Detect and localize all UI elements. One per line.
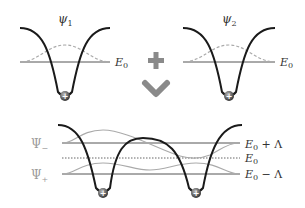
nucleus-icon: + xyxy=(224,91,234,101)
svg-text:+: + xyxy=(100,189,107,198)
upper-level-label: E0 + Λ xyxy=(244,138,283,152)
double-well-diagram: + ψ1 E0 + ψ2 E0 + xyxy=(0,0,305,208)
psi-plus-label: Ψ+ xyxy=(31,168,48,184)
nucleus-icon: + xyxy=(60,91,70,101)
psi-minus-label: Ψ− xyxy=(31,137,48,153)
double-well: + + Ψ− Ψ+ E0 + Λ E0 E0 − Λ xyxy=(31,125,283,198)
e0-label-left: E0 xyxy=(114,56,128,70)
e0-label-right: E0 xyxy=(279,56,293,70)
svg-text:+: + xyxy=(62,92,69,101)
svg-text:+: + xyxy=(226,92,233,101)
psi1-label: ψ1 xyxy=(58,12,73,28)
single-well-1: + ψ1 E0 xyxy=(20,12,128,101)
wavefunction-psi1 xyxy=(22,45,108,62)
nucleus-icon: + xyxy=(191,188,201,198)
nucleus-icon: + xyxy=(98,188,108,198)
wavefunction-psi2 xyxy=(185,45,273,62)
psi2-label: ψ2 xyxy=(222,12,237,28)
chevron-down-icon xyxy=(145,83,167,94)
svg-text:+: + xyxy=(193,189,200,198)
lower-level-label: E0 − Λ xyxy=(244,168,283,182)
middle-level-label: E0 xyxy=(244,152,258,166)
plus-icon xyxy=(148,52,164,69)
single-well-2: + ψ2 E0 xyxy=(183,12,293,101)
